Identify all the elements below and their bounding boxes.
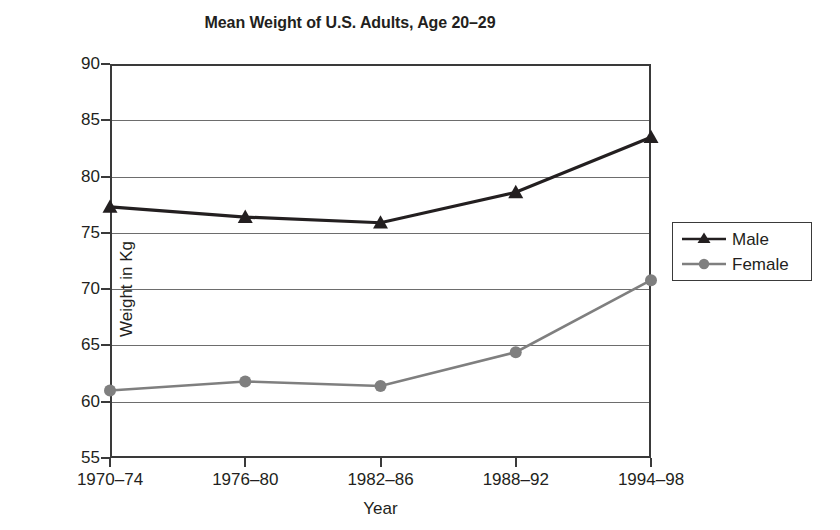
y-tick-mark-65 (101, 344, 110, 346)
y-tick-label-85: 85 (56, 110, 100, 130)
gridline-65 (112, 345, 649, 346)
y-tick-mark-90 (101, 63, 110, 65)
y-tick-mark-60 (101, 401, 110, 403)
legend: Male Female (672, 222, 812, 281)
x-tick-mark-4 (650, 458, 652, 467)
y-tick-mark-85 (101, 119, 110, 121)
y-axis-label: Weight in Kg (117, 179, 137, 399)
gridline-70 (112, 289, 649, 290)
y-tick-mark-70 (101, 288, 110, 290)
y-tick-label-55: 55 (56, 448, 100, 468)
gridline-80 (112, 177, 649, 178)
x-tick-label-4: 1994–98 (618, 470, 684, 490)
gridline-60 (112, 402, 649, 403)
circle-marker-icon (681, 254, 727, 274)
x-tick-mark-1 (244, 458, 246, 467)
legend-label-female: Female (732, 256, 789, 273)
x-tick-label-2: 1982–86 (347, 470, 413, 490)
chart-container: Mean Weight of U.S. Adults, Age 20–29 55… (0, 0, 840, 530)
legend-entry-male[interactable]: Male (681, 228, 769, 250)
y-tick-mark-80 (101, 176, 110, 178)
chart-title: Mean Weight of U.S. Adults, Age 20–29 (0, 14, 700, 32)
x-tick-mark-3 (515, 458, 517, 467)
y-tick-label-80: 80 (56, 167, 100, 187)
y-tick-label-70: 70 (56, 279, 100, 299)
gridline-85 (112, 120, 649, 121)
x-tick-label-1: 1976–80 (212, 470, 278, 490)
x-tick-label-0: 1970–74 (77, 470, 143, 490)
legend-label-male: Male (732, 231, 769, 248)
x-tick-mark-2 (380, 458, 382, 467)
plot-area (110, 64, 651, 458)
y-tick-label-90: 90 (56, 54, 100, 74)
y-tick-mark-75 (101, 232, 110, 234)
y-tick-label-60: 60 (56, 392, 100, 412)
triangle-marker-icon (681, 229, 727, 249)
x-tick-label-3: 1988–92 (483, 470, 549, 490)
y-tick-label-65: 65 (56, 335, 100, 355)
legend-entry-female[interactable]: Female (681, 253, 789, 275)
gridline-75 (112, 233, 649, 234)
x-tick-mark-0 (109, 458, 111, 467)
x-axis-label: Year (110, 499, 651, 519)
y-tick-label-75: 75 (56, 223, 100, 243)
